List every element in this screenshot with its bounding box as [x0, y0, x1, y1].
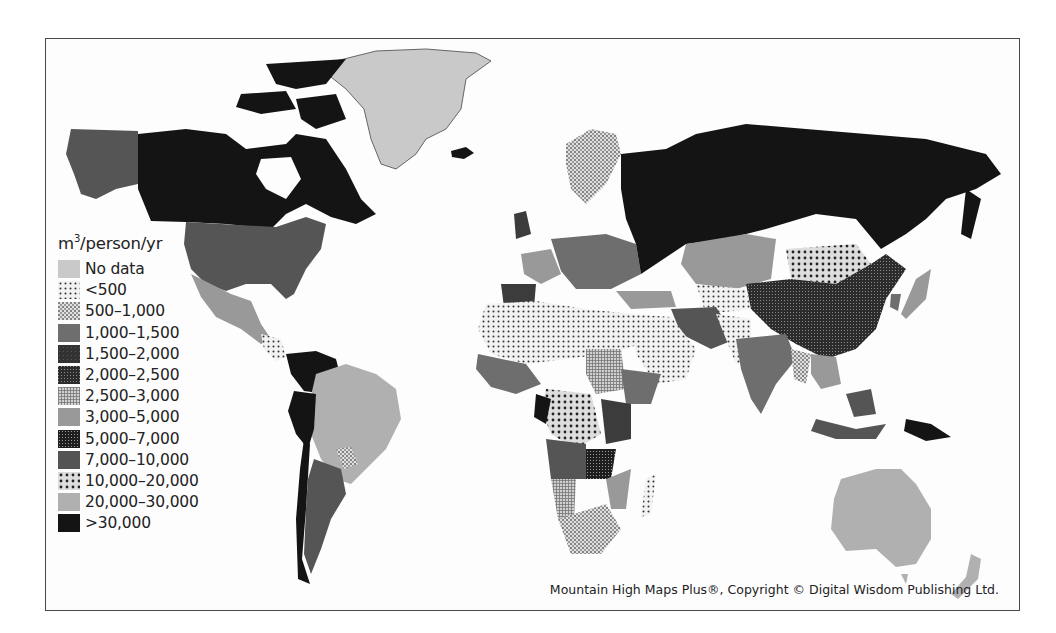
region-alaska [66, 129, 138, 199]
legend-label: No data [85, 260, 145, 278]
region-zambia [586, 449, 616, 479]
legend-label: >30,000 [85, 514, 151, 532]
region-myanmar [791, 349, 811, 384]
legend-swatch [58, 472, 80, 490]
legend-label: 20,000–30,000 [85, 493, 199, 511]
legend-title: m3/person/yr [58, 233, 199, 253]
region-uk [514, 211, 531, 239]
legend-item: 500–1,000 [58, 301, 199, 322]
region-central-europe [551, 234, 641, 289]
legend-swatch [58, 324, 80, 342]
legend-swatch [58, 302, 80, 320]
legend-item: <500 [58, 280, 199, 301]
legend-swatch [58, 387, 80, 405]
legend-label: 1,500–2,000 [85, 345, 179, 363]
legend-label: 2,000–2,500 [85, 366, 179, 384]
region-indochina [811, 354, 841, 389]
legend-label: 3,000–5,000 [85, 408, 179, 426]
legend-swatch [58, 514, 80, 532]
legend-swatch [58, 366, 80, 384]
legend-label: 500–1,000 [85, 302, 165, 320]
legend-swatch [58, 281, 80, 299]
region-sudan [586, 349, 626, 394]
legend-item: 3,000–5,000 [58, 407, 199, 428]
legend-label: 10,000–20,000 [85, 472, 199, 490]
region-madagascar [641, 474, 656, 517]
map-frame: m3/person/yr No data<500500–1,0001,000–1… [45, 38, 1020, 611]
legend-label: 5,000–7,000 [85, 430, 179, 448]
region-korea [890, 294, 901, 311]
region-central-america [261, 334, 286, 361]
legend-item: 7,000–10,000 [58, 449, 199, 470]
region-borneo [846, 389, 876, 417]
region-peru [288, 391, 316, 449]
legend-item: 10,000–20,000 [58, 470, 199, 491]
region-canada-islands [236, 59, 346, 129]
region-japan [901, 269, 931, 319]
legend-swatch [58, 260, 80, 278]
region-angola [546, 439, 586, 479]
region-iceland [451, 147, 474, 159]
legend-swatch [58, 493, 80, 511]
legend-swatch [58, 345, 80, 363]
legend-item: 1,000–1,500 [58, 322, 199, 343]
legend-swatch [58, 430, 80, 448]
region-east-africa [601, 399, 631, 444]
region-australia [831, 469, 931, 567]
legend-item: 20,000–30,000 [58, 492, 199, 513]
region-canada [138, 129, 376, 229]
region-scandinavia [566, 129, 621, 204]
region-namibia [551, 479, 576, 519]
legend-item: 1,500–2,000 [58, 343, 199, 364]
legend-label: <500 [85, 281, 127, 299]
legend-swatch [58, 408, 80, 426]
region-france [521, 249, 561, 284]
region-india [736, 334, 796, 414]
region-kamchatka [961, 189, 981, 239]
legend-label: 2,500–3,000 [85, 387, 179, 405]
region-argentina [304, 459, 346, 574]
legend-label: 7,000–10,000 [85, 451, 189, 469]
copyright-credit: Mountain High Maps Plus®, Copyright © Di… [550, 582, 999, 597]
region-turkey [616, 291, 676, 309]
region-indonesia [811, 419, 886, 439]
legend-item: 2,500–3,000 [58, 386, 199, 407]
legend-item: 5,000–7,000 [58, 428, 199, 449]
legend-item: >30,000 [58, 513, 199, 534]
legend-swatch [58, 451, 80, 469]
region-ethiopia [621, 369, 661, 404]
legend-label: 1,000–1,500 [85, 324, 179, 342]
legend-item: No data [58, 259, 199, 280]
map-legend: m3/person/yr No data<500500–1,0001,000–1… [58, 233, 199, 534]
legend-item: 2,000–2,500 [58, 364, 199, 385]
region-papua [904, 419, 951, 441]
